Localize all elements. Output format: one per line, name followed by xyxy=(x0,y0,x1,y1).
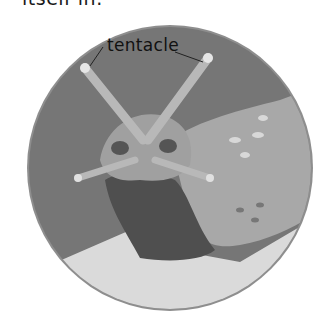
tentacle-label: tentacle xyxy=(107,35,179,55)
